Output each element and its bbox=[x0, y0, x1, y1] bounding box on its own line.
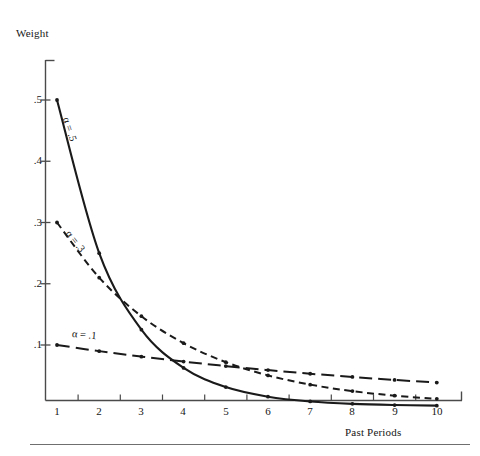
marker-alpha-0.5 bbox=[266, 395, 270, 399]
marker-alpha-0.3 bbox=[55, 221, 59, 225]
marker-alpha-0.3 bbox=[97, 276, 101, 280]
curve-alpha-0.1 bbox=[57, 345, 437, 383]
marker-alpha-0.1 bbox=[140, 355, 144, 359]
marker-alpha-0.3 bbox=[224, 360, 228, 364]
marker-alpha-0.5 bbox=[182, 366, 186, 370]
marker-alpha-0.5 bbox=[351, 402, 355, 406]
marker-alpha-0.5 bbox=[97, 251, 101, 255]
weight-decay-chart: Weight Past Periods .5 .4 .3 .2 .1 1 2 3… bbox=[0, 0, 480, 456]
marker-alpha-0.3 bbox=[308, 383, 312, 387]
marker-alpha-0.1 bbox=[55, 343, 59, 347]
axes bbox=[46, 60, 463, 401]
marker-alpha-0.5 bbox=[224, 385, 228, 389]
marker-alpha-0.1 bbox=[97, 349, 101, 353]
data-point-markers bbox=[55, 98, 439, 407]
plot-area bbox=[0, 0, 480, 456]
marker-alpha-0.5 bbox=[435, 404, 439, 408]
footer-rule bbox=[30, 444, 470, 445]
marker-alpha-0.5 bbox=[393, 403, 397, 407]
data-curves bbox=[57, 100, 437, 406]
marker-alpha-0.3 bbox=[351, 389, 355, 393]
marker-alpha-0.1 bbox=[224, 364, 228, 368]
marker-alpha-0.1 bbox=[435, 381, 439, 385]
marker-alpha-0.3 bbox=[266, 373, 270, 377]
marker-alpha-0.5 bbox=[55, 98, 59, 102]
curve-alpha-0.5 bbox=[57, 100, 437, 406]
axis-ticks bbox=[41, 100, 416, 401]
marker-alpha-0.5 bbox=[140, 328, 144, 332]
marker-alpha-0.1 bbox=[351, 375, 355, 379]
marker-alpha-0.1 bbox=[266, 368, 270, 372]
marker-alpha-0.1 bbox=[182, 360, 186, 364]
marker-alpha-0.3 bbox=[182, 341, 186, 345]
marker-alpha-0.3 bbox=[393, 394, 397, 398]
marker-alpha-0.3 bbox=[140, 314, 144, 318]
marker-alpha-0.1 bbox=[393, 378, 397, 382]
marker-alpha-0.3 bbox=[435, 397, 439, 401]
marker-alpha-0.1 bbox=[308, 372, 312, 376]
curve-alpha-0.3 bbox=[57, 223, 437, 399]
marker-alpha-0.5 bbox=[308, 400, 312, 404]
